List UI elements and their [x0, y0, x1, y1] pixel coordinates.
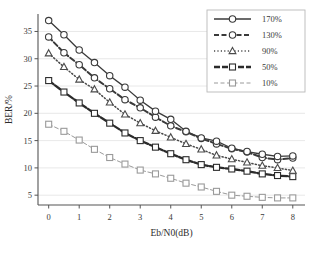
data-point-10%-15	[275, 195, 281, 201]
data-point-130%-1	[61, 50, 67, 56]
y-tick-label-30: 30	[24, 54, 33, 64]
legend-label-130%: 130%	[262, 30, 282, 40]
data-point-170%-4	[107, 72, 113, 78]
data-point-10%-8	[168, 175, 174, 181]
data-point-50%-13	[244, 168, 250, 174]
data-point-50%-12	[229, 166, 235, 172]
legend-label-50%: 50%	[262, 62, 278, 72]
data-point-10%-6	[137, 167, 143, 173]
data-point-50%-3	[91, 110, 97, 116]
data-point-10%-11	[214, 188, 220, 194]
ber-vs-ebn0-chart: 5101520253035012345678Eb/N0(dB)BER/%170%…	[0, 0, 316, 253]
data-point-10%-16	[290, 195, 296, 201]
legend-label-170%: 170%	[262, 14, 282, 24]
data-point-170%-16	[290, 153, 296, 159]
data-point-170%-0	[45, 17, 51, 23]
data-point-10%-0	[46, 121, 52, 127]
legend-marker-170%	[229, 16, 235, 22]
data-point-50%-0	[46, 78, 52, 84]
data-point-10%-5	[122, 161, 128, 167]
data-point-50%-5	[122, 130, 128, 136]
legend-marker-130%	[229, 32, 235, 38]
data-point-50%-14	[259, 171, 265, 177]
data-point-50%-8	[168, 151, 174, 157]
data-point-170%-15	[274, 153, 280, 159]
y-tick-label-5: 5	[28, 190, 32, 200]
data-point-170%-5	[122, 84, 128, 90]
x-axis-title: Eb/N0(dB)	[150, 228, 192, 239]
data-point-130%-8	[168, 123, 174, 129]
y-tick-label-20: 20	[24, 108, 33, 118]
data-point-170%-14	[259, 151, 265, 157]
data-point-10%-10	[198, 184, 204, 190]
data-point-50%-9	[183, 157, 189, 163]
x-tick-label-6: 6	[230, 212, 234, 222]
legend-marker-10%	[230, 80, 236, 86]
x-tick-label-1: 1	[77, 212, 81, 222]
data-point-170%-6	[137, 97, 143, 103]
x-tick-label-5: 5	[199, 212, 203, 222]
data-point-50%-1	[61, 89, 67, 95]
data-point-170%-3	[91, 59, 97, 65]
x-tick-label-4: 4	[169, 212, 174, 222]
data-point-10%-14	[259, 194, 265, 200]
data-point-10%-1	[61, 128, 67, 134]
data-point-10%-13	[244, 193, 250, 199]
data-point-10%-9	[183, 180, 189, 186]
y-axis-title: BER/%	[4, 95, 14, 124]
data-point-130%-5	[122, 96, 128, 102]
x-tick-label-2: 2	[108, 212, 112, 222]
data-point-10%-7	[152, 171, 158, 177]
x-tick-label-8: 8	[291, 212, 295, 222]
y-tick-label-35: 35	[24, 26, 33, 36]
data-point-50%-2	[76, 100, 82, 106]
data-point-130%-7	[152, 114, 158, 120]
data-point-130%-0	[45, 34, 51, 40]
data-point-170%-9	[183, 128, 189, 134]
data-point-50%-16	[290, 174, 296, 180]
data-point-170%-10	[198, 135, 204, 141]
data-point-10%-12	[229, 192, 235, 198]
chart-canvas: 5101520253035012345678Eb/N0(dB)BER/%170%…	[0, 0, 316, 253]
legend-label-10%: 10%	[262, 78, 278, 88]
data-point-130%-2	[76, 62, 82, 68]
data-point-170%-2	[76, 47, 82, 53]
data-point-130%-4	[107, 86, 113, 92]
data-point-50%-11	[214, 164, 220, 170]
y-tick-label-10: 10	[24, 163, 33, 173]
data-point-130%-3	[91, 75, 97, 81]
data-point-50%-4	[107, 120, 113, 126]
x-tick-label-3: 3	[138, 212, 142, 222]
data-point-50%-7	[152, 144, 158, 150]
data-point-10%-4	[107, 155, 113, 161]
data-point-10%-3	[91, 146, 97, 152]
y-tick-label-25: 25	[24, 81, 33, 91]
y-tick-label-15: 15	[24, 136, 33, 146]
data-point-130%-6	[137, 105, 143, 111]
data-point-170%-11	[213, 138, 219, 144]
data-point-170%-1	[61, 32, 67, 38]
data-point-170%-7	[152, 108, 158, 114]
data-point-170%-13	[244, 148, 250, 154]
legend-label-90%: 90%	[262, 46, 278, 56]
data-point-50%-10	[198, 162, 204, 168]
data-point-50%-15	[275, 173, 281, 179]
x-tick-label-0: 0	[47, 212, 51, 222]
data-point-50%-6	[137, 138, 143, 144]
data-point-170%-8	[168, 116, 174, 122]
legend-marker-50%	[230, 64, 236, 70]
x-tick-label-7: 7	[260, 212, 264, 222]
data-point-170%-12	[229, 145, 235, 151]
data-point-10%-2	[76, 137, 82, 143]
